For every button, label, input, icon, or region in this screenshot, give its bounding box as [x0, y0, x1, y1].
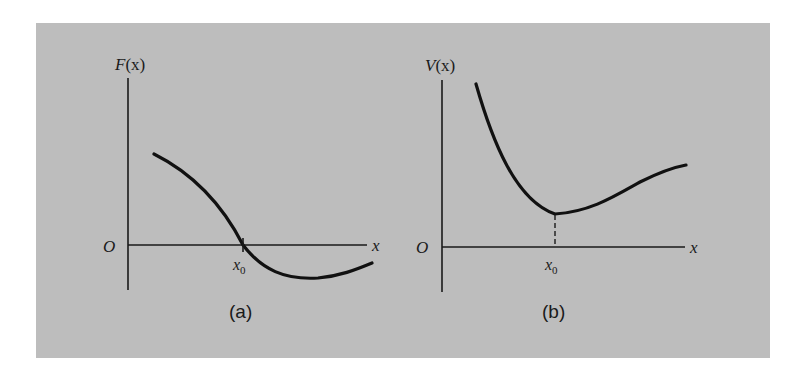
panel-a: F(x) O x x0 (a): [103, 55, 380, 322]
panel-a-x0-label: x0: [232, 256, 246, 276]
panel-b-x0-label: x0: [544, 256, 558, 276]
panel-b-potential-curve: [476, 84, 686, 214]
panel-a-origin-label: O: [103, 237, 115, 256]
panel-b-caption: (b): [542, 301, 565, 322]
figure-canvas: F(x) O x x0 (a) V(x) O x x0 (b): [0, 0, 805, 374]
panel-a-caption: (a): [229, 301, 252, 322]
panel-b-x-label: x: [689, 238, 698, 257]
panel-a-force-curve: [154, 154, 372, 278]
panel-a-y-label: F(x): [114, 55, 145, 74]
panel-a-x-label: x: [371, 236, 380, 255]
panel-b-y-label: V(x): [425, 56, 455, 75]
panel-b-origin-label: O: [416, 238, 428, 257]
panel-b: V(x) O x x0 (b): [416, 56, 698, 322]
